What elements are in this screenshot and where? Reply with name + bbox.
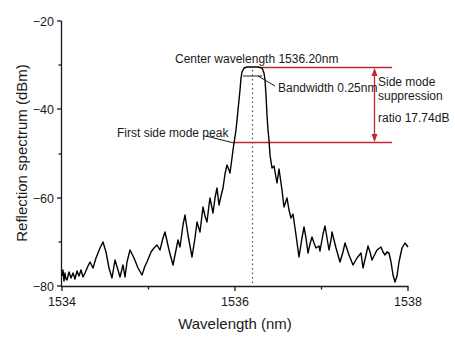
x-tick-label: 1536	[221, 295, 249, 309]
bandwidth-label: Bandwidth 0.25nm	[278, 81, 377, 95]
x-tick-label: 1534	[48, 295, 76, 309]
x-axis-title: Wavelength (nm)	[178, 315, 292, 332]
spectrum-curve	[62, 67, 408, 282]
bandwidth-leader	[258, 76, 275, 86]
smsr-label-line3: ratio 17.74dB	[378, 111, 449, 125]
y-tick-label: −40	[33, 103, 54, 117]
smsr-double-arrow	[372, 68, 378, 142]
x-axis	[61, 287, 409, 292]
smsr-label-line1: Side mode	[378, 75, 436, 89]
y-axis-title: Reflection spectrum (dBm)	[13, 64, 30, 242]
y-tick-label: −80	[33, 280, 54, 294]
center-wavelength-label: Center wavelength 1536.20nm	[175, 52, 338, 66]
y-tick-label: −20	[33, 15, 54, 29]
y-tick-label: −60	[33, 192, 54, 206]
reflection-spectrum-chart: −20 −40 −60 −80 1534 1536 1538 Wavelengt…	[0, 0, 455, 343]
y-axis	[57, 21, 62, 287]
x-tick-label: 1538	[394, 295, 422, 309]
first-side-mode-label: First side mode peak	[117, 126, 229, 140]
smsr-label-line2: suppression	[378, 89, 443, 103]
chart-svg: −20 −40 −60 −80 1534 1536 1538 Wavelengt…	[0, 0, 455, 343]
